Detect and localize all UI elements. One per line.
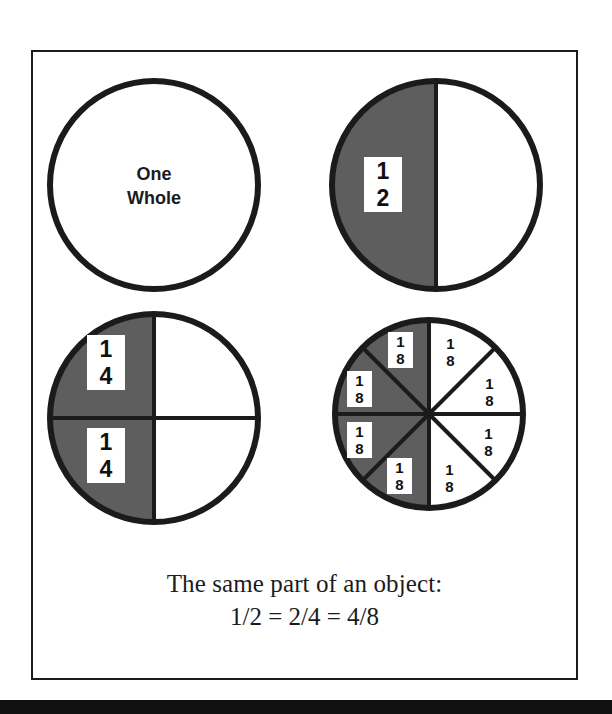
half-sector-unshaded — [436, 81, 540, 289]
one-eighth-6-denominator: 8 — [485, 393, 493, 408]
label-one-quarter-top: 1 4 — [87, 335, 125, 390]
one-eighth-5-denominator: 8 — [446, 353, 454, 368]
circle-one-whole: One Whole — [43, 74, 265, 296]
caption-line-2: 1/2 = 2/4 = 4/8 — [33, 603, 576, 631]
circle-eighths: 1 8 1 8 1 8 1 8 — [329, 314, 529, 514]
label-one-quarter-bottom: 1 4 — [87, 428, 125, 483]
caption-line-1: The same part of an object: — [33, 570, 576, 598]
label-one-eighth-6: 1 8 — [477, 374, 502, 410]
one-half-numerator: 1 — [377, 160, 390, 183]
one-half-denominator: 2 — [377, 187, 390, 210]
eighths-diagram — [329, 314, 529, 514]
label-one-eighth-1: 1 8 — [388, 332, 413, 368]
one-eighth-1-denominator: 8 — [396, 351, 404, 366]
label-one-eighth-3: 1 8 — [347, 422, 372, 458]
one-quarter-bottom-denominator: 4 — [100, 458, 113, 481]
one-eighth-7-numerator: 1 — [484, 426, 492, 441]
one-eighth-3-denominator: 8 — [355, 441, 363, 456]
quarters-diagram — [43, 307, 265, 529]
label-one-eighth-5: 1 8 — [438, 334, 463, 370]
one-quarter-top-denominator: 4 — [100, 365, 113, 388]
page-canvas: One Whole 1 2 — [0, 0, 612, 714]
one-eighth-2-numerator: 1 — [355, 373, 363, 388]
bottom-black-bar — [0, 700, 612, 714]
label-one-eighth-7: 1 8 — [476, 424, 501, 460]
halves-diagram — [325, 74, 547, 296]
circle-halves: 1 2 — [325, 74, 547, 296]
one-quarter-top-numerator: 1 — [100, 338, 113, 361]
label-one-eighth-4: 1 8 — [387, 458, 412, 494]
one-eighth-7-denominator: 8 — [484, 443, 492, 458]
caption-block: The same part of an object: 1/2 = 2/4 = … — [33, 570, 576, 631]
one-quarter-bottom-numerator: 1 — [100, 431, 113, 454]
one-eighth-8-numerator: 1 — [445, 462, 453, 477]
label-one-eighth-8: 1 8 — [437, 460, 462, 496]
one-eighth-3-numerator: 1 — [355, 424, 363, 439]
one-whole-label: One Whole — [43, 162, 265, 211]
figure-frame: One Whole 1 2 — [31, 50, 578, 680]
one-eighth-4-numerator: 1 — [395, 460, 403, 475]
one-eighth-1-numerator: 1 — [396, 334, 404, 349]
one-eighth-2-denominator: 8 — [355, 390, 363, 405]
one-eighth-5-numerator: 1 — [446, 336, 454, 351]
one-eighth-8-denominator: 8 — [445, 479, 453, 494]
one-eighth-6-numerator: 1 — [485, 376, 493, 391]
circle-quarters: 1 4 1 4 — [43, 307, 265, 529]
label-one-eighth-2: 1 8 — [347, 371, 372, 407]
label-one-half: 1 2 — [364, 157, 402, 212]
one-eighth-4-denominator: 8 — [395, 477, 403, 492]
